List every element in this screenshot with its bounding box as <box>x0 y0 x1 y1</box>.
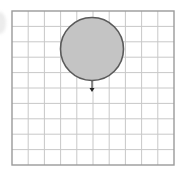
down-arrow-icon <box>90 81 95 92</box>
shaded-circle <box>61 18 124 81</box>
arrow-head <box>90 88 95 92</box>
grid-diagram <box>0 0 180 173</box>
grid-figure <box>0 0 180 173</box>
